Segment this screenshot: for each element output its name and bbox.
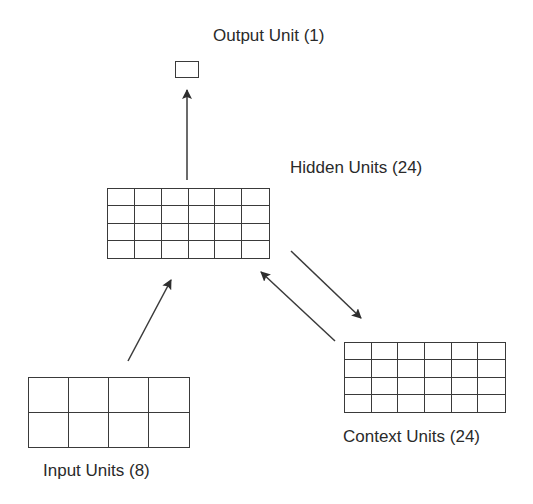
connection-arrows bbox=[0, 0, 533, 504]
arrow-hidden-to-context bbox=[291, 251, 361, 318]
arrow-input-to-hidden bbox=[128, 280, 171, 361]
